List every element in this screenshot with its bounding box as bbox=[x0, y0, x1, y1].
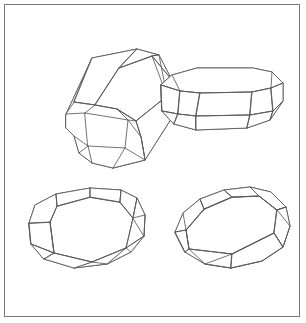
figure-top-right bbox=[161, 68, 283, 130]
figure-bottom-right bbox=[175, 187, 290, 268]
crystal-drawing-canvas bbox=[0, 0, 306, 323]
top-right-lower-bevel-3 bbox=[196, 115, 250, 130]
figure-top-left bbox=[66, 49, 172, 168]
top-right-girdle-face-3 bbox=[196, 92, 252, 116]
crystal-figure-plate bbox=[0, 0, 306, 323]
figure-bottom-left bbox=[29, 188, 145, 268]
